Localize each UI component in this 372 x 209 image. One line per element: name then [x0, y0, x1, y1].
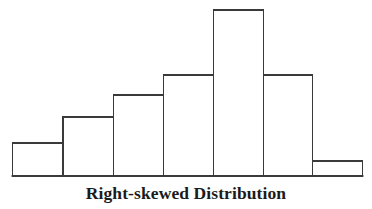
histogram-chart [0, 0, 372, 180]
histogram-bar [13, 143, 64, 176]
histogram-bar [214, 10, 264, 176]
plot-area [0, 0, 372, 180]
histogram-figure: Right-skewed Distribution [0, 0, 372, 209]
histogram-bar [313, 161, 363, 176]
histogram-bar [114, 95, 164, 176]
histogram-bar [63, 117, 114, 176]
histogram-bar [264, 75, 313, 176]
histogram-bar [164, 75, 214, 176]
chart-caption: Right-skewed Distribution [0, 180, 372, 209]
histogram-bars [13, 10, 363, 176]
